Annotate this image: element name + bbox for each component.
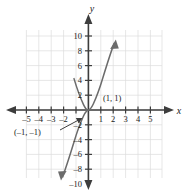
x-axis-left-arrowhead xyxy=(6,106,16,114)
coordinate-plane-svg: –5 –4 –3 –2 1 2 3 4 5 10 8 6 4 2 –2 –4 –… xyxy=(0,0,191,194)
y-axis-bottom-arrowhead xyxy=(84,180,92,190)
y-tick-label-neg10: –10 xyxy=(68,179,82,189)
y-tick-label-neg6: –6 xyxy=(73,149,83,159)
grid-vertical-lines xyxy=(26,30,162,178)
x-tick-label-pos2: 2 xyxy=(111,114,115,124)
x-tick-label-pos1: 1 xyxy=(99,114,103,124)
y-tick-label-neg8: –8 xyxy=(73,164,83,174)
curve-lower-arrowhead xyxy=(58,171,67,181)
y-tick-label-neg2: –2 xyxy=(73,120,83,130)
y-tick-label-neg4: –4 xyxy=(73,135,83,145)
y-tick-label-pos6: 6 xyxy=(78,61,82,71)
x-tick-label-neg2: –2 xyxy=(58,114,68,124)
point-label-positive: (1, 1) xyxy=(103,93,122,103)
x-tick-label-pos3: 3 xyxy=(123,114,127,124)
y-axis xyxy=(84,14,92,190)
x-axis-label: x xyxy=(176,105,182,116)
x-tick-label-neg4: –4 xyxy=(34,114,44,124)
cubic-function-graph: –5 –4 –3 –2 1 2 3 4 5 10 8 6 4 2 –2 –4 –… xyxy=(0,0,191,194)
x-tick-label-neg3: –3 xyxy=(46,114,56,124)
x-tick-label-pos5: 5 xyxy=(148,114,152,124)
x-tick-label-neg5: –5 xyxy=(21,114,31,124)
curve-upper-arrowhead xyxy=(110,40,119,50)
x-axis-right-arrowhead xyxy=(164,106,174,114)
y-axis-label: y xyxy=(89,3,95,14)
point-label-negative: (–1, –1) xyxy=(14,127,41,137)
y-tick-label-pos8: 8 xyxy=(78,46,82,56)
y-axis-top-arrowhead xyxy=(84,14,92,24)
y-tick-label-pos2: 2 xyxy=(78,90,82,100)
y-tick-label-pos10: 10 xyxy=(74,31,83,41)
x-tick-label-pos4: 4 xyxy=(136,114,141,124)
